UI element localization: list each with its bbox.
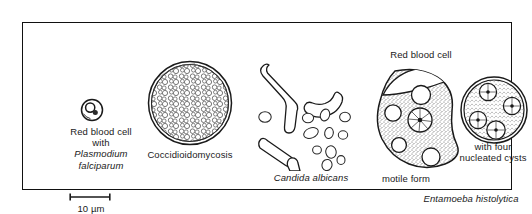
scale-bar-rule-icon	[69, 193, 111, 201]
ingested-red-blood-cell-label: Red blood cell	[373, 49, 469, 60]
cyst-label-line-1: with four	[447, 141, 532, 152]
scale-bar: 10 µm	[61, 191, 133, 213]
cyst-label-line-2: nucleated cysts	[447, 152, 532, 163]
motile-form-label: motile form	[363, 173, 449, 184]
coccidioides-spherule-icon	[129, 57, 251, 149]
plasmodium-ring-form-icon	[77, 95, 107, 125]
quadrinucleate-cyst-icon	[455, 75, 532, 147]
plate-border: Red blood cell with Plasmodium falciparu…	[22, 22, 512, 190]
nucleated-cysts-label: with four nucleated cysts	[447, 141, 532, 163]
coccidioidomycosis-label: Coccidioidomycosis	[121, 149, 259, 160]
panel-entamoeba-cyst: with four nucleated cysts	[451, 75, 532, 187]
microbiology-figure-plate: Red blood cell with Plasmodium falciparu…	[0, 0, 532, 213]
candida-albicans-label: Candida albicans	[251, 172, 371, 183]
panel-candida-albicans: Candida albicans	[251, 55, 371, 190]
panel-coccidioidomycosis: Coccidioidomycosis	[121, 55, 259, 175]
candida-pseudohyphae-icon	[255, 55, 367, 171]
entamoeba-histolytica-label: Entamoeba histolytica	[405, 193, 532, 204]
scale-bar-label: 10 µm	[61, 203, 121, 213]
